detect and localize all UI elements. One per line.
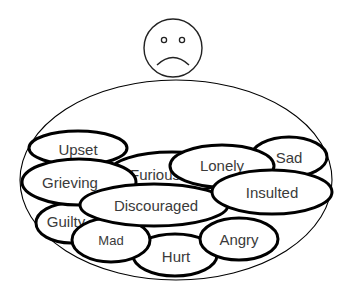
face-outline	[144, 19, 202, 77]
emotion-label: Lonely	[200, 157, 245, 174]
emotion-bubbles: FuriousUpsetSadGuiltyHurtAngryMadGrievin…	[22, 131, 332, 276]
emotion-bubble-discouraged: Discouraged	[80, 184, 228, 226]
emotion-bubble-insulted: Insulted	[212, 170, 332, 214]
sad-face-icon	[144, 19, 202, 77]
emotion-label: Sad	[276, 149, 303, 166]
emotion-label: Hurt	[162, 248, 191, 265]
emotion-bubble-angry: Angry	[200, 218, 278, 260]
emotion-label: Mad	[98, 233, 123, 248]
emotion-label: Upset	[58, 141, 98, 158]
emotion-label: Insulted	[246, 184, 299, 201]
emotion-label: Grieving	[42, 174, 98, 191]
emotions-diagram: FuriousUpsetSadGuiltyHurtAngryMadGrievin…	[0, 0, 349, 297]
emotion-label: Discouraged	[114, 197, 198, 214]
emotion-label: Angry	[219, 231, 259, 248]
